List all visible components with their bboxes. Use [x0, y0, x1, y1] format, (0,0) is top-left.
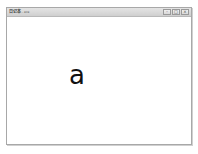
minimize-button[interactable]: – — [163, 9, 171, 15]
maximize-icon: □ — [174, 9, 178, 14]
window-title-app: 日记本 — [9, 8, 21, 16]
minimize-icon: – — [166, 9, 168, 14]
window-title: 日记本 - exe — [9, 8, 29, 16]
displayed-character: a — [69, 64, 85, 86]
maximize-button[interactable]: □ — [172, 9, 180, 15]
window-title-suffix: - exe — [22, 8, 29, 16]
title-bar[interactable]: 日记本 - exe – □ × — [7, 8, 191, 17]
close-button[interactable]: × — [181, 9, 189, 15]
app-window: 日记本 - exe – □ × a — [6, 7, 192, 145]
canvas-area[interactable]: a — [7, 17, 191, 144]
close-icon: × — [183, 9, 186, 14]
window-controls: – □ × — [163, 9, 189, 15]
